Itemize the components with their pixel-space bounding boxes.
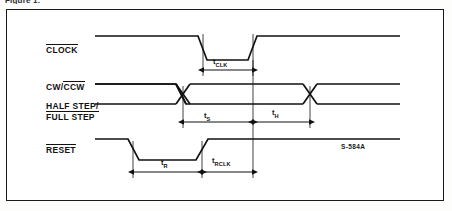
signal-label-clock-text: CLOCK: [46, 44, 78, 55]
signal-label-reset: RESET: [46, 144, 76, 155]
signal-label-reset-text: RESET: [46, 144, 76, 155]
signal-label-ccw-text: CCW: [63, 81, 84, 92]
signal-label-clock: CLOCK: [46, 44, 78, 55]
timing-label-trclk-subscript: RCLK: [215, 161, 231, 167]
figure-page: Figure 1.: [0, 0, 452, 211]
signal-label-full-step-text: FULL STEP: [46, 111, 99, 122]
figure-reference-code: S-584A: [341, 143, 365, 150]
timing-label-th-subscript: H: [275, 113, 279, 119]
signal-label-cw-ccw: CW/CCW: [46, 81, 85, 92]
timing-label-tr: tR: [161, 160, 168, 168]
timing-label-tclk-subscript: CLK: [216, 62, 228, 68]
timing-label-ts: tS: [204, 113, 210, 121]
signal-label-half-full-step: HALF STEP/ FULL STEP: [46, 101, 99, 122]
timing-label-tr-subscript: R: [164, 163, 168, 169]
figure-caption: Figure 1.: [5, 0, 40, 4]
timing-label-th: tH: [272, 110, 279, 118]
signal-label-cw-text: CW/: [46, 82, 63, 92]
timing-label-ts-subscript: S: [207, 116, 211, 122]
signal-label-half-step-text: HALF STEP/: [46, 101, 99, 111]
timing-label-trclk: tRCLK: [212, 158, 231, 166]
timing-label-tclk: tCLK: [213, 59, 228, 67]
